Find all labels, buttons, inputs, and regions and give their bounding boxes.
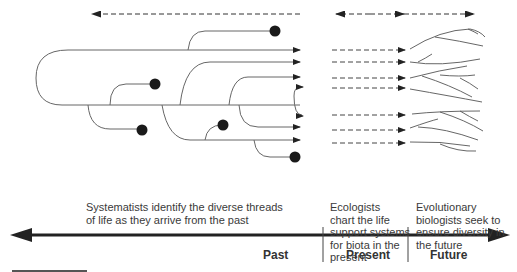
past-desc-line: of life as they arrive from the past [86, 214, 283, 227]
extinct-node [150, 79, 161, 90]
ecologists-description: Ecologists chart the life support system… [330, 201, 410, 264]
extinct-node [290, 152, 301, 163]
present-desc-line: support systems [330, 226, 410, 239]
present-desc-line: Ecologists [330, 201, 410, 214]
extinct-node [137, 125, 148, 136]
extinct-node [218, 120, 229, 131]
extinction-nodes [137, 26, 301, 163]
present-lineages [332, 50, 405, 143]
future-threads [410, 29, 485, 151]
era-label-past: Past [263, 248, 288, 262]
present-desc-line: for biota in the [330, 239, 410, 252]
extinct-node [270, 26, 281, 37]
phylogenetic-tree [36, 31, 303, 157]
present-desc-line: chart the life [330, 214, 410, 227]
future-desc-line: ensure diversity in [416, 226, 505, 239]
systematists-description: Systematists identify the diverse thread… [86, 201, 283, 226]
past-desc-line: Systematists identify the diverse thread… [86, 201, 283, 214]
future-desc-line: Evolutionary [416, 201, 505, 214]
future-desc-line: the future [416, 239, 505, 252]
present-desc-line: present [330, 251, 410, 264]
future-desc-line: biologists seek to [416, 214, 505, 227]
evolutionary-biologists-description: Evolutionary biologists seek to ensure d… [416, 201, 505, 251]
